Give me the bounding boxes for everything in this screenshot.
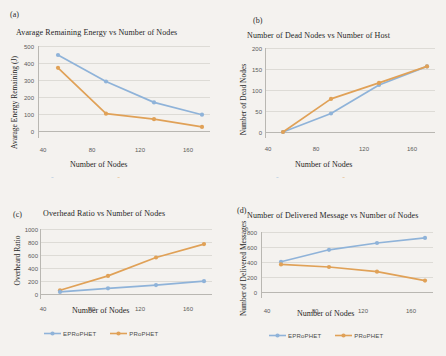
panel-b-xtick-80: 80: [308, 146, 324, 152]
panel-c-ytick-400: 400: [18, 266, 38, 272]
panel-c-legend-eprophet[interactable]: EPRoPHET: [44, 330, 96, 337]
panel-c-title: Overhead Ratio vs Number of Nodes: [43, 209, 165, 218]
panel-c-legend-prophet[interactable]: PRoPHET: [110, 330, 158, 337]
panel-a: (a) Avarage Remaining Energy vs Number o…: [0, 0, 223, 178]
panel-a-xtick-80: 80: [84, 147, 100, 153]
panel-c-letter: (c): [13, 210, 22, 219]
legend-line-marker-icon: [110, 330, 127, 337]
panel-c-legend-label-prophet: PRoPHET: [129, 331, 158, 337]
panel-c-xlabel: Number of Nodes: [72, 306, 129, 315]
panel-d-title: Number of Delivered Message vs Number of…: [247, 211, 418, 220]
panel-d-xtick-80: 80: [307, 308, 323, 314]
panel-c-ytick-1000: 1000: [18, 227, 38, 233]
panel-c: (c) Overhead Ratio vs Number of Nodes Ov…: [0, 178, 223, 356]
panel-d-xtick-40: 40: [259, 308, 275, 314]
panel-c-xtick-80: 80: [84, 306, 100, 312]
panel-c-ytick-600: 600: [18, 253, 38, 259]
panel-c-plot: [40, 229, 212, 305]
panel-d-ytick-600: 600: [239, 245, 257, 251]
panel-d-ytick-800: 800: [239, 230, 257, 236]
panel-c-series-prophet: [58, 242, 206, 292]
legend-line-marker-icon: [44, 330, 61, 337]
panel-a-series-eprophet: [56, 53, 204, 117]
panel-d-series-prophet: [279, 262, 427, 282]
panel-b-ytick-150: 150: [245, 67, 262, 73]
panel-a-ytick-0: 0: [18, 129, 34, 135]
panel-b-svg: [265, 48, 435, 146]
panel-b-ytick-100: 100: [245, 88, 262, 94]
panel-c-xtick-160: 160: [179, 306, 197, 312]
panel-b-series-eprophet: [281, 64, 429, 134]
panel-d-plot: [261, 232, 433, 308]
panel-d-series-eprophet: [279, 236, 427, 264]
panel-a-ytick-100: 100: [18, 112, 34, 118]
panel-d-xtick-120: 120: [354, 308, 372, 314]
panel-c-legend: EPRoPHET PRoPHET: [44, 330, 158, 337]
panel-c-legend-label-eprophet: EPRoPHET: [63, 331, 96, 337]
panel-a-ytick-300: 300: [18, 78, 34, 84]
panel-c-xtick-40: 40: [35, 306, 51, 312]
panel-d-legend-eprophet[interactable]: EPRoPHET: [269, 332, 321, 339]
panel-c-xtick-120: 120: [131, 306, 149, 312]
panel-a-letter: (a): [10, 10, 19, 19]
panel-a-title: Avarage Remaining Energy vs Number of No…: [16, 28, 177, 37]
panel-d-legend-prophet[interactable]: PRoPHET: [335, 332, 383, 339]
panel-c-gridlines: [40, 230, 212, 282]
panel-a-plot: [38, 46, 210, 146]
panel-d: (d) Number of Delivered Message vs Numbe…: [223, 178, 446, 356]
panel-b-ytick-50: 50: [245, 109, 262, 115]
panel-b-letter: (b): [253, 16, 262, 25]
panel-a-ytick-400: 400: [18, 61, 34, 67]
panel-d-svg: [261, 232, 433, 308]
panel-a-ytick-500: 500: [18, 44, 34, 50]
panel-b: (b) Number of Dead Nodes vs Number of Ho…: [223, 0, 446, 178]
panel-d-ytick-200: 200: [239, 275, 257, 281]
panel-b-xtick-120: 120: [355, 146, 373, 152]
panel-d-legend: EPRoPHET PRoPHET: [269, 332, 383, 339]
panel-b-xtick-40: 40: [260, 146, 276, 152]
legend-line-marker-icon: [335, 332, 352, 339]
panel-b-xtick-160: 160: [403, 146, 421, 152]
panel-a-xtick-40: 40: [35, 147, 51, 153]
panel-a-xlabel: Number of Nodes: [70, 160, 127, 169]
panel-d-ytick-0: 0: [239, 290, 257, 296]
panel-d-ytick-400: 400: [239, 260, 257, 266]
panel-b-ytick-0: 0: [245, 130, 262, 136]
legend-line-marker-icon: [269, 332, 286, 339]
panel-b-title: Number of Dead Nodes vs Number of Host: [247, 31, 390, 40]
panel-a-svg: [38, 46, 210, 146]
figure-grid: (a) Avarage Remaining Energy vs Number o…: [0, 0, 446, 356]
panel-a-ytick-200: 200: [18, 95, 34, 101]
panel-b-plot: [265, 48, 435, 146]
panel-b-xlabel: Number of Nodes: [295, 160, 352, 169]
panel-a-xtick-120: 120: [131, 147, 149, 153]
panel-c-ytick-0: 0: [18, 292, 38, 298]
panel-d-xtick-160: 160: [402, 308, 420, 314]
panel-c-ytick-200: 200: [18, 279, 38, 285]
panel-a-xtick-160: 160: [179, 147, 197, 153]
panel-c-svg: [40, 229, 212, 305]
panel-d-legend-label-eprophet: EPRoPHET: [288, 333, 321, 339]
panel-a-ylabel: Avarage Energy Remaining (J): [10, 53, 19, 153]
panel-d-xlabel: Number of Nodes: [297, 309, 354, 318]
panel-a-gridlines: [38, 47, 210, 115]
panel-d-legend-label-prophet: PRoPHET: [354, 333, 383, 339]
panel-b-ytick-200: 200: [245, 46, 262, 52]
panel-c-ytick-800: 800: [18, 240, 38, 246]
